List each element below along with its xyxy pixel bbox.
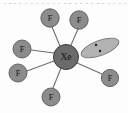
ligand-atom-mid-left-label: F [20,44,25,54]
scan-speck [42,3,44,4]
scan-speck [80,3,82,4]
scan-speck [113,3,115,4]
scan-speck [31,3,33,4]
scan-speck [53,3,55,4]
scan-speck [86,3,88,4]
scan-speck [91,3,93,4]
scan-speck [75,3,77,4]
scan-speck [14,3,16,4]
central-atom-group: Xe [54,45,79,70]
scan-speck [108,3,110,4]
scan-speck [64,3,66,4]
ligand-atom-lower-left-label: F [16,68,21,78]
scan-speck [69,3,71,4]
scan-speck [47,3,49,4]
molecular-structure-figure: FFFFFF Xe [0,0,128,113]
scan-speck [36,3,38,4]
ligand-atom-bottom-label: F [49,92,54,102]
scan-speck [119,3,121,4]
ligand-atom-top-right-label: F [77,15,82,25]
scan-speck [25,3,27,4]
central-atom-label: Xe [60,52,71,62]
scan-speck [19,3,21,4]
ligand-atom-right-label: F [108,74,113,83]
scan-speck [4,3,6,4]
scan-speck [97,3,99,4]
structure-canvas: FFFFFF Xe [0,0,128,113]
scan-speck [124,3,126,4]
electron-dot-1 [95,44,97,46]
scan-speck [9,3,11,4]
ligand-atom-top-left-label: F [48,13,53,23]
scan-speck [58,3,60,4]
electron-dot-2 [99,50,101,52]
scan-speck [102,3,104,4]
